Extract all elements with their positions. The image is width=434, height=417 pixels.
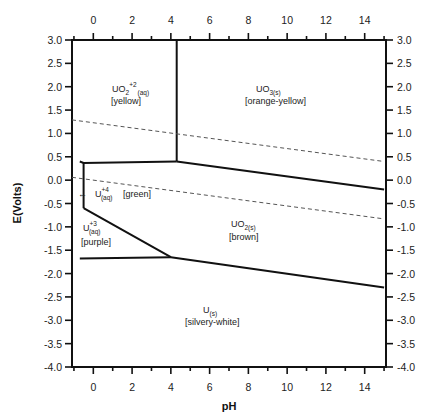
x-tick-label-top: 4 xyxy=(168,14,174,26)
x-tick-label-bottom: 4 xyxy=(168,381,174,393)
y-tick-label-right: -0.5 xyxy=(397,198,415,210)
x-tick-label-top: 2 xyxy=(129,14,135,26)
phase-boundary-line xyxy=(80,162,177,163)
y-tick-label-right: -1.5 xyxy=(397,244,415,256)
y-tick-label-left: 1.0 xyxy=(47,127,62,139)
y-tick-label-right: -4.0 xyxy=(397,361,415,373)
y-tick-label-left: -3.5 xyxy=(44,338,62,350)
y-tick-label-right: 2.0 xyxy=(397,81,412,93)
svg-text:UO2+2(aq): UO2+2(aq) xyxy=(112,81,149,97)
y-tick-label-left: -1.0 xyxy=(44,221,62,233)
svg-text:[yellow]: [yellow] xyxy=(111,96,141,106)
region-label-uo2-aq: UO2+2(aq) [yellow] xyxy=(111,81,149,106)
y-tick-label-right: -2.0 xyxy=(397,268,415,280)
x-tick-label-top: 14 xyxy=(359,14,371,26)
x-tick-label-bottom: 12 xyxy=(320,381,332,393)
x-tick-label-top: 10 xyxy=(281,14,293,26)
region-label-uo3: UO3(s) [orange-yellow] xyxy=(245,84,306,106)
x-tick-label-bottom: 6 xyxy=(207,381,213,393)
y-tick-label-left: 0.5 xyxy=(47,151,62,163)
y-tick-label-right: 0.5 xyxy=(397,151,412,163)
x-tick-label-bottom: 8 xyxy=(245,381,251,393)
y-tick-label-left: 0.0 xyxy=(47,174,62,186)
x-tick-label-top: 0 xyxy=(90,14,96,26)
x-axis-title: pH xyxy=(222,400,237,412)
svg-text:[brown]: [brown] xyxy=(229,232,259,242)
y-tick-label-right: -3.0 xyxy=(397,314,415,326)
x-tick-label-top: 6 xyxy=(207,14,213,26)
y-tick-label-left: 3.0 xyxy=(47,34,62,46)
svg-text:←: ← xyxy=(78,189,87,199)
y-tick-label-left: -2.0 xyxy=(44,268,62,280)
y-tick-label-left: 2.0 xyxy=(47,81,62,93)
phase-boundary-line xyxy=(177,162,384,190)
svg-text:[green]: [green] xyxy=(123,189,151,199)
y-tick-label-right: -2.5 xyxy=(397,291,415,303)
pourbaix-diagram: 00224466881010121214143.03.02.52.52.02.0… xyxy=(0,0,434,417)
x-tick-label-top: 8 xyxy=(245,14,251,26)
y-tick-label-left: -3.0 xyxy=(44,314,62,326)
svg-text:U+3(aq): U+3(aq) xyxy=(83,220,100,236)
svg-text:[orange-yellow]: [orange-yellow] xyxy=(245,96,306,106)
x-tick-label-bottom: 0 xyxy=(90,381,96,393)
y-tick-label-right: 3.0 xyxy=(397,34,412,46)
svg-text:UO2(s): UO2(s) xyxy=(231,219,256,232)
x-tick-label-bottom: 2 xyxy=(129,381,135,393)
phase-boundary-line xyxy=(80,257,171,258)
x-tick-label-bottom: 14 xyxy=(359,381,371,393)
y-tick-label-left: -2.5 xyxy=(44,291,62,303)
x-tick-label-top: 12 xyxy=(320,14,332,26)
svg-text:[purple]: [purple] xyxy=(81,237,111,247)
y-tick-label-left: -0.5 xyxy=(44,198,62,210)
y-axis-title: E(Volts) xyxy=(11,182,23,223)
svg-text:[silvery-white]: [silvery-white] xyxy=(185,317,240,327)
boundary-lines xyxy=(72,40,384,288)
y-tick-label-left: -4.0 xyxy=(44,361,62,373)
y-tick-label-right: -1.0 xyxy=(397,221,415,233)
region-label-u4: ← U+4(aq) [green] xyxy=(78,186,151,202)
y-tick-label-left: 1.5 xyxy=(47,104,62,116)
y-tick-label-left: -1.5 xyxy=(44,244,62,256)
y-tick-label-left: 2.5 xyxy=(47,57,62,69)
region-label-u3: U+3(aq) [purple] xyxy=(81,220,111,247)
water-stability-line xyxy=(72,120,384,162)
y-tick-label-right: 2.5 xyxy=(397,57,412,69)
y-tick-label-right: 0.0 xyxy=(397,174,412,186)
svg-text:U+4(aq): U+4(aq) xyxy=(95,186,112,202)
region-label-uo2-s: UO2(s) [brown] xyxy=(229,219,259,242)
y-tick-label-right: 1.5 xyxy=(397,104,412,116)
region-label-u-s: U(s) [silvery-white] xyxy=(185,305,240,327)
y-tick-label-right: 1.0 xyxy=(397,127,412,139)
axis-ticks: 00224466881010121214143.03.02.52.52.02.0… xyxy=(44,14,415,393)
y-tick-label-right: -3.5 xyxy=(397,338,415,350)
x-tick-label-bottom: 10 xyxy=(281,381,293,393)
phase-boundary-line xyxy=(171,257,384,287)
